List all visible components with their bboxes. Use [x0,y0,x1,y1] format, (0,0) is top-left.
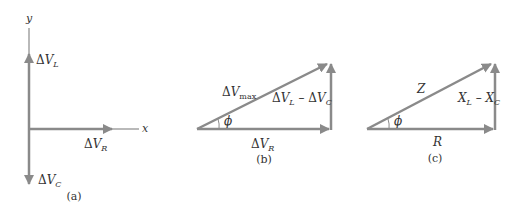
c-vertical-label: XL – XC [457,91,500,107]
b-base-label: ΔVR [251,137,274,153]
delta-vc-label: ΔVC [38,173,61,189]
panel-b: ϕ ΔVmax ΔVL – ΔVC ΔVR (b) [197,64,332,166]
b-vertical-label: ΔVL – ΔVC [272,91,332,107]
panel-c: ϕ Z XL – XC R (c) [367,64,500,165]
delta-vr-label: ΔVR [84,137,107,153]
b-hypotenuse-label: ΔVmax [222,85,257,101]
caption-c: (c) [428,152,443,165]
b-angle-label: ϕ [224,114,232,128]
panel-a: y x ΔVL ΔVR ΔVC (a) [25,12,149,203]
phasor-diagrams: y x ΔVL ΔVR ΔVC (a) ϕ ΔVmax ΔVL – ΔVC ΔV… [0,0,524,203]
caption-b: (b) [256,153,272,166]
b-angle-arc [218,119,219,129]
c-base-label: R [432,135,442,149]
c-hypotenuse-label: Z [416,82,426,96]
y-axis-label: y [25,12,33,25]
delta-vl-label: ΔVL [36,53,59,69]
c-angle-label: ϕ [394,114,402,128]
c-angle-arc [388,119,389,129]
caption-a: (a) [66,190,81,203]
x-axis-label: x [142,122,149,135]
